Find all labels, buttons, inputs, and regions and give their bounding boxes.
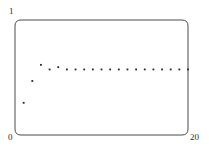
data-point: [57, 66, 59, 68]
data-point: [127, 69, 129, 71]
data-point: [118, 69, 120, 71]
data-point: [101, 69, 103, 71]
data-point: [23, 102, 25, 104]
data-point: [153, 69, 155, 71]
data-point: [161, 69, 163, 71]
data-point: [144, 69, 146, 71]
plot-frame-border: [15, 20, 188, 135]
data-point: [75, 69, 77, 71]
data-point: [31, 80, 33, 82]
data-point: [40, 64, 42, 66]
data-point: [92, 69, 94, 71]
data-point: [83, 69, 85, 71]
data-point-group: [23, 64, 189, 104]
data-point: [109, 69, 111, 71]
data-point: [187, 69, 189, 71]
chart-container: 1 0 20: [0, 0, 209, 155]
data-point: [66, 69, 68, 71]
data-point: [49, 69, 51, 71]
data-point: [135, 69, 137, 71]
scatter-plot-area: [0, 0, 209, 155]
data-point: [170, 69, 172, 71]
data-point: [178, 69, 180, 71]
